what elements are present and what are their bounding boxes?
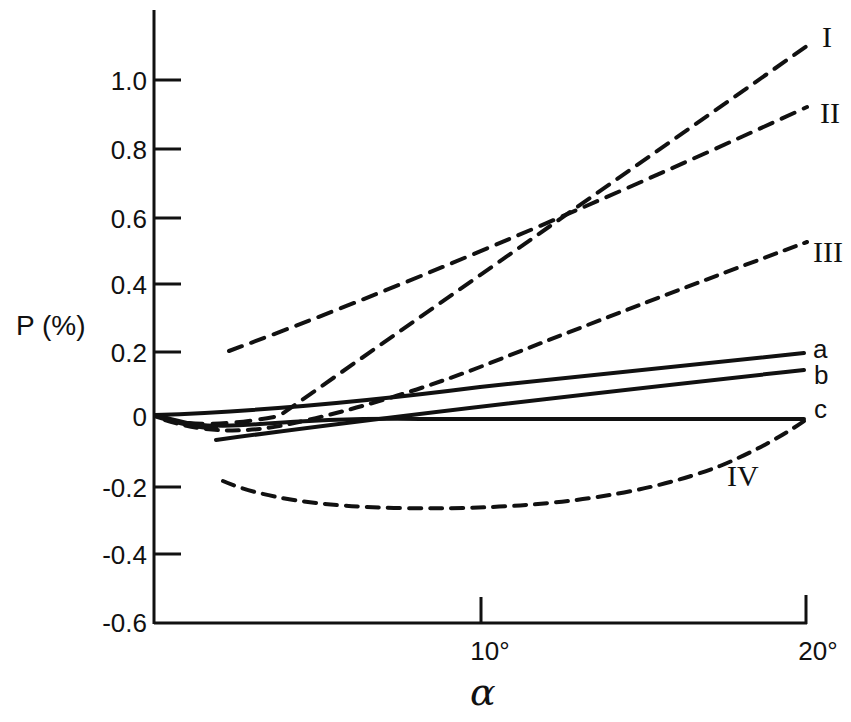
label-curve-c: c <box>814 394 827 424</box>
curve-I <box>165 46 807 424</box>
label-curve-b: b <box>814 360 828 390</box>
y-axis-title: P (%) <box>16 310 86 341</box>
ytick-label: 0 <box>133 402 147 432</box>
ytick-label: 1.0 <box>111 66 147 96</box>
x-ticks <box>481 595 806 624</box>
ytick-label: 0.8 <box>111 135 147 165</box>
axes <box>154 10 807 624</box>
ytick-label: 0.6 <box>111 204 147 234</box>
xtick-label: 20° <box>798 636 837 666</box>
ytick-label: -0.4 <box>102 540 147 570</box>
curve-II <box>229 107 807 351</box>
chart-canvas: 1.0 0.8 0.6 0.4 0.2 0 -0.2 -0.4 -0.6 10°… <box>0 0 851 722</box>
label-curve-III: III <box>813 235 843 268</box>
x-axis-title: α <box>470 670 496 714</box>
curve-IV <box>223 419 807 508</box>
ytick-label: -0.2 <box>102 473 147 503</box>
ytick-label: 0.4 <box>111 270 147 300</box>
ytick-label: 0.2 <box>111 338 147 368</box>
curve-c <box>155 415 804 426</box>
xtick-label: 10° <box>470 636 509 666</box>
ytick-label: -0.6 <box>102 608 147 638</box>
y-tick-labels: 1.0 0.8 0.6 0.4 0.2 0 -0.2 -0.4 -0.6 <box>102 66 147 638</box>
label-curve-I: I <box>822 20 832 53</box>
label-curve-IV: IV <box>727 459 759 492</box>
y-ticks <box>155 80 181 554</box>
label-curve-II: II <box>820 96 840 129</box>
